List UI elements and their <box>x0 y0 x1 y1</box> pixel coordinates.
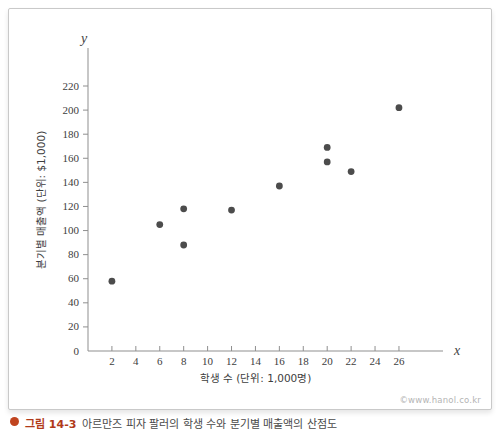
caption-bullet-icon <box>10 417 19 426</box>
figure-caption: 그림 14-3 아르만즈 피자 팔러의 학생 수와 분기별 매출액의 산점도 <box>10 415 337 431</box>
chart-panel: ©www.hanol.co.kr <box>8 8 492 410</box>
publisher-watermark: ©www.hanol.co.kr <box>399 395 481 405</box>
figure-title: 아르만즈 피자 팔러의 학생 수와 분기별 매출액의 산점도 <box>82 415 336 431</box>
figure-number: 그림 14-3 <box>25 415 76 431</box>
